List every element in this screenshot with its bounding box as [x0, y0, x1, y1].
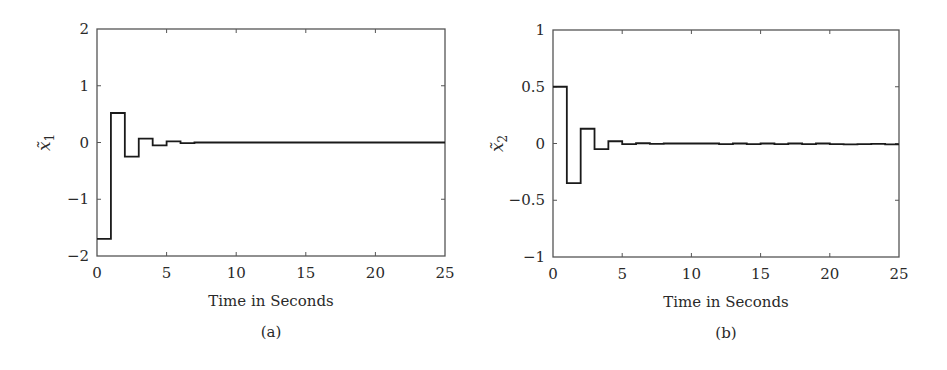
- y-axis-title: x̃1: [34, 134, 57, 151]
- y-tick-label: 0.5: [521, 78, 545, 96]
- y-tick-label: −2: [67, 247, 89, 265]
- y-tick-label: −1: [67, 190, 89, 208]
- panel-caption: (b): [715, 324, 736, 342]
- x-tick-label: 15: [296, 264, 315, 282]
- x-tick-label: 0: [548, 265, 558, 283]
- y-axis-title-text: x̃2: [487, 135, 510, 152]
- x-tick-label: 10: [227, 264, 246, 282]
- y-axis-title: x̃2: [487, 135, 510, 152]
- y-tick-label: 0: [535, 135, 545, 153]
- figure-panel-b: 0510152025−1−0.500.51Time in Seconds(b)x…: [473, 0, 947, 370]
- y-tick-label: 1: [79, 77, 89, 95]
- y-tick-label: 2: [79, 20, 89, 38]
- y-axis-title-text: x̃1: [34, 134, 57, 151]
- chart-b: 0510152025−1−0.500.51Time in Seconds(b)x…: [473, 0, 947, 370]
- x-axis-title: Time in Seconds: [663, 293, 788, 311]
- panel-caption: (a): [261, 323, 282, 341]
- x-axis-title: Time in Seconds: [208, 292, 333, 310]
- x-tick-label: 5: [617, 265, 627, 283]
- x-tick-label: 0: [92, 264, 102, 282]
- step-series-line: [97, 113, 445, 239]
- chart-a: 0510152025−2−1012Time in Seconds(a)x̃1: [0, 0, 473, 370]
- x-tick-label: 25: [889, 265, 908, 283]
- step-series-line: [553, 87, 899, 183]
- x-tick-label: 15: [751, 265, 770, 283]
- y-tick-label: −1: [523, 248, 545, 266]
- y-tick-label: 1: [535, 21, 545, 39]
- x-tick-label: 20: [366, 264, 385, 282]
- y-tick-label: 0: [79, 134, 89, 152]
- x-tick-label: 20: [820, 265, 839, 283]
- x-tick-label: 25: [435, 264, 454, 282]
- x-tick-label: 5: [162, 264, 172, 282]
- y-tick-label: −0.5: [509, 191, 545, 209]
- x-tick-label: 10: [682, 265, 701, 283]
- figure-panel-a: 0510152025−2−1012Time in Seconds(a)x̃1: [0, 0, 473, 370]
